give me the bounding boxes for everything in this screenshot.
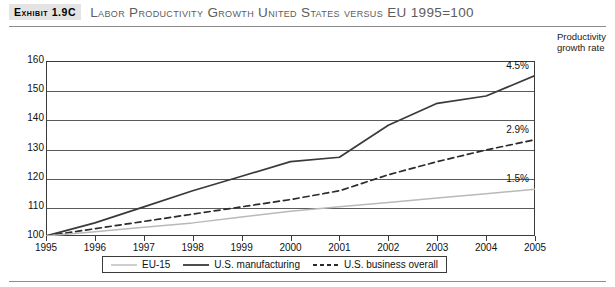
x-axis-tick [95, 236, 96, 241]
y-axis-tick-label: 130 [27, 142, 44, 153]
note-line-1: Productivity [557, 31, 606, 42]
x-axis-tick-label: 2003 [426, 242, 448, 253]
x-axis-tick [535, 236, 536, 241]
y-axis-tick-label: 100 [27, 229, 44, 240]
x-axis-tick-label: 1998 [182, 242, 204, 253]
x-axis-tick [486, 236, 487, 241]
growth-rate-annotation: 2.9% [483, 124, 529, 135]
header-divider [9, 26, 606, 27]
x-axis-tick-label: 2005 [524, 242, 546, 253]
footer-divider [9, 281, 606, 282]
x-axis-tick [291, 236, 292, 241]
legend-label: EU-15 [142, 259, 170, 270]
x-axis-tick-label: 2001 [328, 242, 350, 253]
exhibit-title: Labor Productivity Growth United States … [90, 5, 474, 20]
legend-swatch-icon [111, 261, 137, 269]
series-line [46, 189, 535, 236]
growth-rate-annotation: 4.5% [483, 60, 529, 71]
note-line-2: growth rate [557, 42, 606, 53]
x-axis-tick [388, 236, 389, 241]
x-axis-tick-label: 1995 [35, 242, 57, 253]
x-axis-tick [437, 236, 438, 241]
legend-swatch-icon [313, 261, 339, 269]
y-axis-tick-label: 150 [27, 83, 44, 94]
x-axis-tick-label: 1999 [230, 242, 252, 253]
growth-rate-annotation: 1.5% [483, 173, 529, 184]
x-axis-tick [144, 236, 145, 241]
legend-item: U.S. business overall [313, 259, 438, 270]
legend-item: U.S. manufacturing [183, 259, 300, 270]
x-axis-tick [242, 236, 243, 241]
series-lines [46, 61, 535, 236]
x-axis-tick-label: 2000 [279, 242, 301, 253]
series-line [46, 140, 535, 236]
x-axis-tick-label: 1997 [133, 242, 155, 253]
y-axis-tick-label: 120 [27, 171, 44, 182]
x-axis-tick [339, 236, 340, 241]
exhibit-number-badge: Exhibit 1.9C [9, 4, 81, 20]
x-axis-tick-label: 2004 [475, 242, 497, 253]
x-axis-tick-label: 1996 [84, 242, 106, 253]
y-axis-tick-label: 160 [27, 54, 44, 65]
x-axis-tick [46, 236, 47, 241]
legend-label: U.S. manufacturing [214, 259, 300, 270]
chart-legend: EU-15U.S. manufacturingU.S. business ove… [102, 256, 447, 273]
legend-swatch-icon [183, 261, 209, 269]
legend-label: U.S. business overall [344, 259, 438, 270]
legend-item: EU-15 [111, 259, 170, 270]
exhibit-header: Exhibit 1.9C Labor Productivity Growth U… [0, 0, 615, 24]
y-axis-tick-label: 110 [28, 200, 44, 211]
x-axis-tick [193, 236, 194, 241]
productivity-growth-rate-note: Productivity growth rate [557, 31, 606, 53]
x-axis-tick-label: 2002 [377, 242, 399, 253]
y-axis-tick-label: 140 [27, 112, 44, 123]
